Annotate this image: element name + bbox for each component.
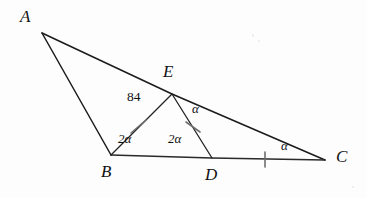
tick-mark-ED xyxy=(186,122,200,132)
angle-label-84: 84 xyxy=(127,90,141,104)
tick-mark-BE xyxy=(131,120,146,133)
angle-label-2alpha-at-B: 2α xyxy=(118,132,131,145)
scan-speck xyxy=(258,40,260,42)
geometry-canvas xyxy=(0,0,367,198)
vertex-label-B: B xyxy=(101,163,111,180)
segment-AB xyxy=(42,33,111,155)
vertex-label-C: C xyxy=(336,148,347,165)
segment-BC xyxy=(111,155,325,160)
scan-speck xyxy=(252,34,254,37)
angle-label-2alpha-at-D: 2α xyxy=(168,132,181,145)
geometry-figure: A B C D E 84 α 2α 2α α xyxy=(0,0,367,198)
vertex-label-A: A xyxy=(20,8,30,25)
angle-label-alpha-at-E: α xyxy=(192,102,199,115)
vertex-label-E: E xyxy=(163,63,173,80)
angle-label-alpha-at-C: α xyxy=(281,139,288,152)
scan-speck xyxy=(352,186,354,188)
vertex-label-D: D xyxy=(205,166,217,183)
